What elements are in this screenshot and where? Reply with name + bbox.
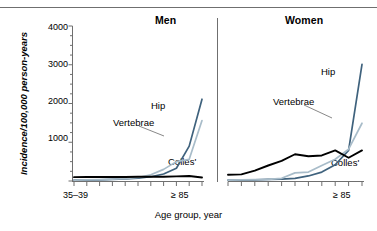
figure-root: Men Women Incidence/100,000 person-years… <box>0 0 377 231</box>
leader-vertebrae-women <box>304 105 332 118</box>
series-line-hip-men <box>74 99 202 180</box>
series-line-colles-men <box>74 176 202 178</box>
axes-layer <box>69 18 365 186</box>
series-line-vertebrae-men <box>74 121 202 180</box>
annotation-leader-lines <box>139 105 332 136</box>
series-line-hip-women <box>228 64 362 180</box>
series-line-colles-women <box>228 150 362 174</box>
chart-canvas <box>0 0 377 231</box>
leader-vertebrae-men <box>139 126 164 136</box>
